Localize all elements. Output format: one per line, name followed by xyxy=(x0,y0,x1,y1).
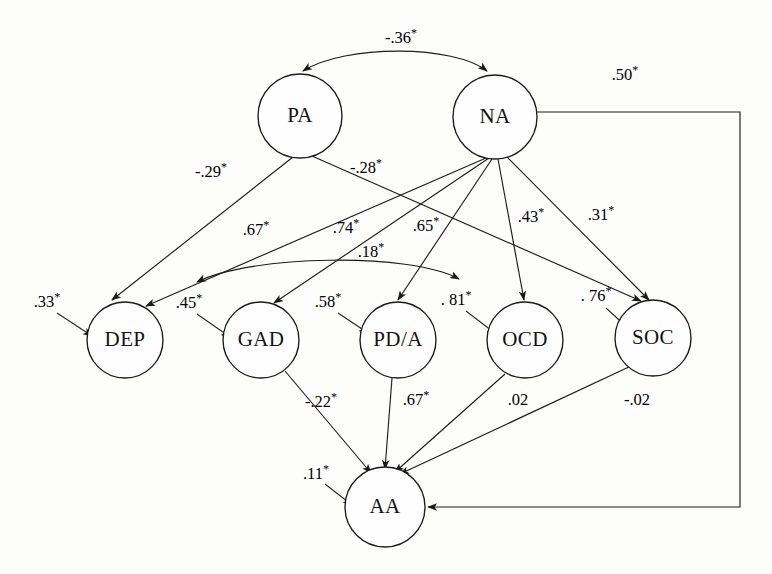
path-diagram-canvas: PA NA DEP GAD PD/A OCD SOC AA -.36* -.29… xyxy=(0,0,772,574)
node-label-gad: GAD xyxy=(238,327,285,351)
coef-label-na-aa: .50* xyxy=(612,65,639,85)
node-label-dep: DEP xyxy=(105,327,146,351)
path-gad-aa xyxy=(285,371,371,473)
coef-label-na-ocd: .43* xyxy=(518,207,545,227)
residual-label-aa: .11* xyxy=(303,464,329,484)
residual-label-gad: .45* xyxy=(176,293,203,313)
coef-label-na-pda: .65* xyxy=(413,216,440,236)
path-na-ocd xyxy=(498,159,524,300)
path-pda-aa xyxy=(385,378,392,469)
path-na-soc xyxy=(505,155,649,300)
path-gad-pda xyxy=(197,260,459,282)
path-na-aa xyxy=(428,112,740,507)
path-ocd-aa xyxy=(395,374,505,472)
residual-arrow-dep xyxy=(57,313,92,336)
coef-label-gad-pda: .18* xyxy=(358,242,385,262)
node-label-pa: PA xyxy=(287,103,313,127)
node-label-pda: PD/A xyxy=(373,327,423,351)
coef-label-na-soc: .31* xyxy=(588,205,615,225)
coef-label-na-gad: .74* xyxy=(333,218,360,238)
path-diagram-svg: PA NA DEP GAD PD/A OCD SOC AA xyxy=(0,0,772,574)
residual-label-dep: .33* xyxy=(34,292,61,312)
residual-label-soc: . 76* xyxy=(581,286,612,306)
node-label-aa: AA xyxy=(369,494,401,518)
path-soc-aa xyxy=(400,366,631,474)
coef-label-pa-na: -.36* xyxy=(385,28,417,48)
residual-label-ocd: . 81* xyxy=(441,290,472,310)
coef-label-na-dep: .67* xyxy=(243,220,270,240)
coef-label-pda-aa: .67* xyxy=(403,390,430,410)
path-na-gad xyxy=(274,158,489,303)
coef-label-soc-aa: -.02 xyxy=(624,390,650,410)
residual-label-pda: .58* xyxy=(315,292,342,312)
coef-label-gad-aa: -.22* xyxy=(305,392,337,412)
node-label-ocd: OCD xyxy=(502,327,548,351)
path-pa-na xyxy=(303,51,487,71)
coef-label-ocd-aa: .02 xyxy=(508,390,529,410)
node-label-soc: SOC xyxy=(632,325,674,349)
node-label-na: NA xyxy=(479,104,511,128)
coef-label-pa-dep: -.29* xyxy=(195,162,227,182)
coef-label-pa-soc: -.28* xyxy=(350,158,382,178)
